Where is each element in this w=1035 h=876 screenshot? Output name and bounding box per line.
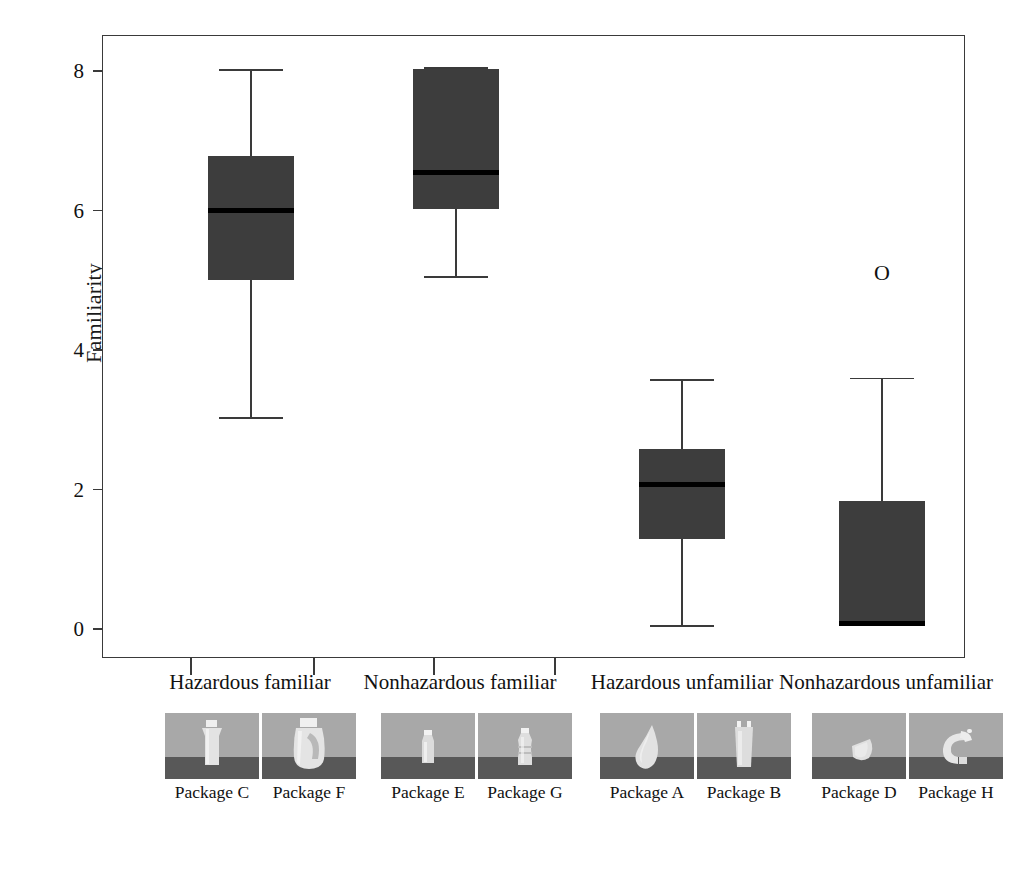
- y-tick-mark: [93, 210, 102, 212]
- package-cell: Package C: [165, 713, 259, 802]
- package-cell: Package B: [697, 713, 791, 802]
- y-tick-label: 6: [38, 201, 84, 222]
- package-photo-wedge-pod: [812, 713, 906, 779]
- package-label: Package C: [175, 784, 249, 802]
- whisker-lower-line: [250, 280, 252, 417]
- whisker-upper-cap: [850, 378, 914, 380]
- package-photo-ribbed-water-bottle: [478, 713, 572, 779]
- whisker-upper-cap: [219, 69, 283, 71]
- outlier-marker: O: [874, 262, 890, 284]
- plot-area: O: [102, 35, 965, 658]
- package-cell: Package F: [262, 713, 356, 802]
- whisker-lower-line: [455, 209, 457, 277]
- package-photo-forked-tube: [697, 713, 791, 779]
- package-label: Package G: [487, 784, 562, 802]
- package-photo-slim-water-bottle: [381, 713, 475, 779]
- package-group-1: Package C Package F: [165, 713, 356, 802]
- y-tick-label: 8: [38, 61, 84, 82]
- package-label: Package H: [918, 784, 993, 802]
- y-tick-label: 0: [38, 619, 84, 640]
- whisker-upper-cap: [650, 379, 714, 381]
- category-label-4: Nonhazardous unfamiliar: [736, 672, 1035, 693]
- package-label: Package F: [273, 784, 345, 802]
- box-2: [413, 69, 499, 209]
- package-photo-tall-tapered-bottle: [165, 713, 259, 779]
- package-group-4: Package D Package H: [812, 713, 1003, 802]
- package-group-2: Package E Package G: [381, 713, 572, 802]
- box-3: [639, 449, 725, 539]
- package-cell: Package G: [478, 713, 572, 802]
- y-tick-label: 4: [38, 340, 84, 361]
- whisker-lower-cap: [424, 276, 488, 278]
- median-line-4: [839, 621, 925, 626]
- box-4: [839, 501, 925, 623]
- median-line-2: [413, 170, 499, 175]
- package-photo-handled-jug: [262, 713, 356, 779]
- package-cell: Package A: [600, 713, 694, 802]
- package-label: Package E: [391, 784, 464, 802]
- package-cell: Package E: [381, 713, 475, 802]
- whisker-lower-line: [681, 539, 683, 625]
- package-photo-teardrop-blob: [600, 713, 694, 779]
- y-tick-mark: [93, 349, 102, 351]
- y-tick-label: 2: [38, 480, 84, 501]
- package-label: Package D: [821, 784, 896, 802]
- median-line-1: [208, 208, 294, 213]
- whisker-lower-cap: [650, 625, 714, 627]
- whisker-lower-cap: [219, 417, 283, 419]
- whisker-upper-line: [681, 379, 683, 449]
- median-line-3: [639, 482, 725, 487]
- package-photo-ring-handle: [909, 713, 1003, 779]
- package-cell: Package D: [812, 713, 906, 802]
- y-tick-mark: [93, 489, 102, 491]
- package-group-3: Package A Package B: [600, 713, 791, 802]
- box-1: [208, 156, 294, 280]
- package-label: Package A: [610, 784, 684, 802]
- y-tick-mark: [93, 70, 102, 72]
- whisker-upper-line: [250, 69, 252, 155]
- boxplot-figure: Familiarity 86420 O Hazardous familiarNo…: [0, 0, 1035, 876]
- package-cell: Package H: [909, 713, 1003, 802]
- y-tick-mark: [93, 628, 102, 630]
- package-label: Package B: [707, 784, 781, 802]
- whisker-upper-line: [881, 378, 883, 501]
